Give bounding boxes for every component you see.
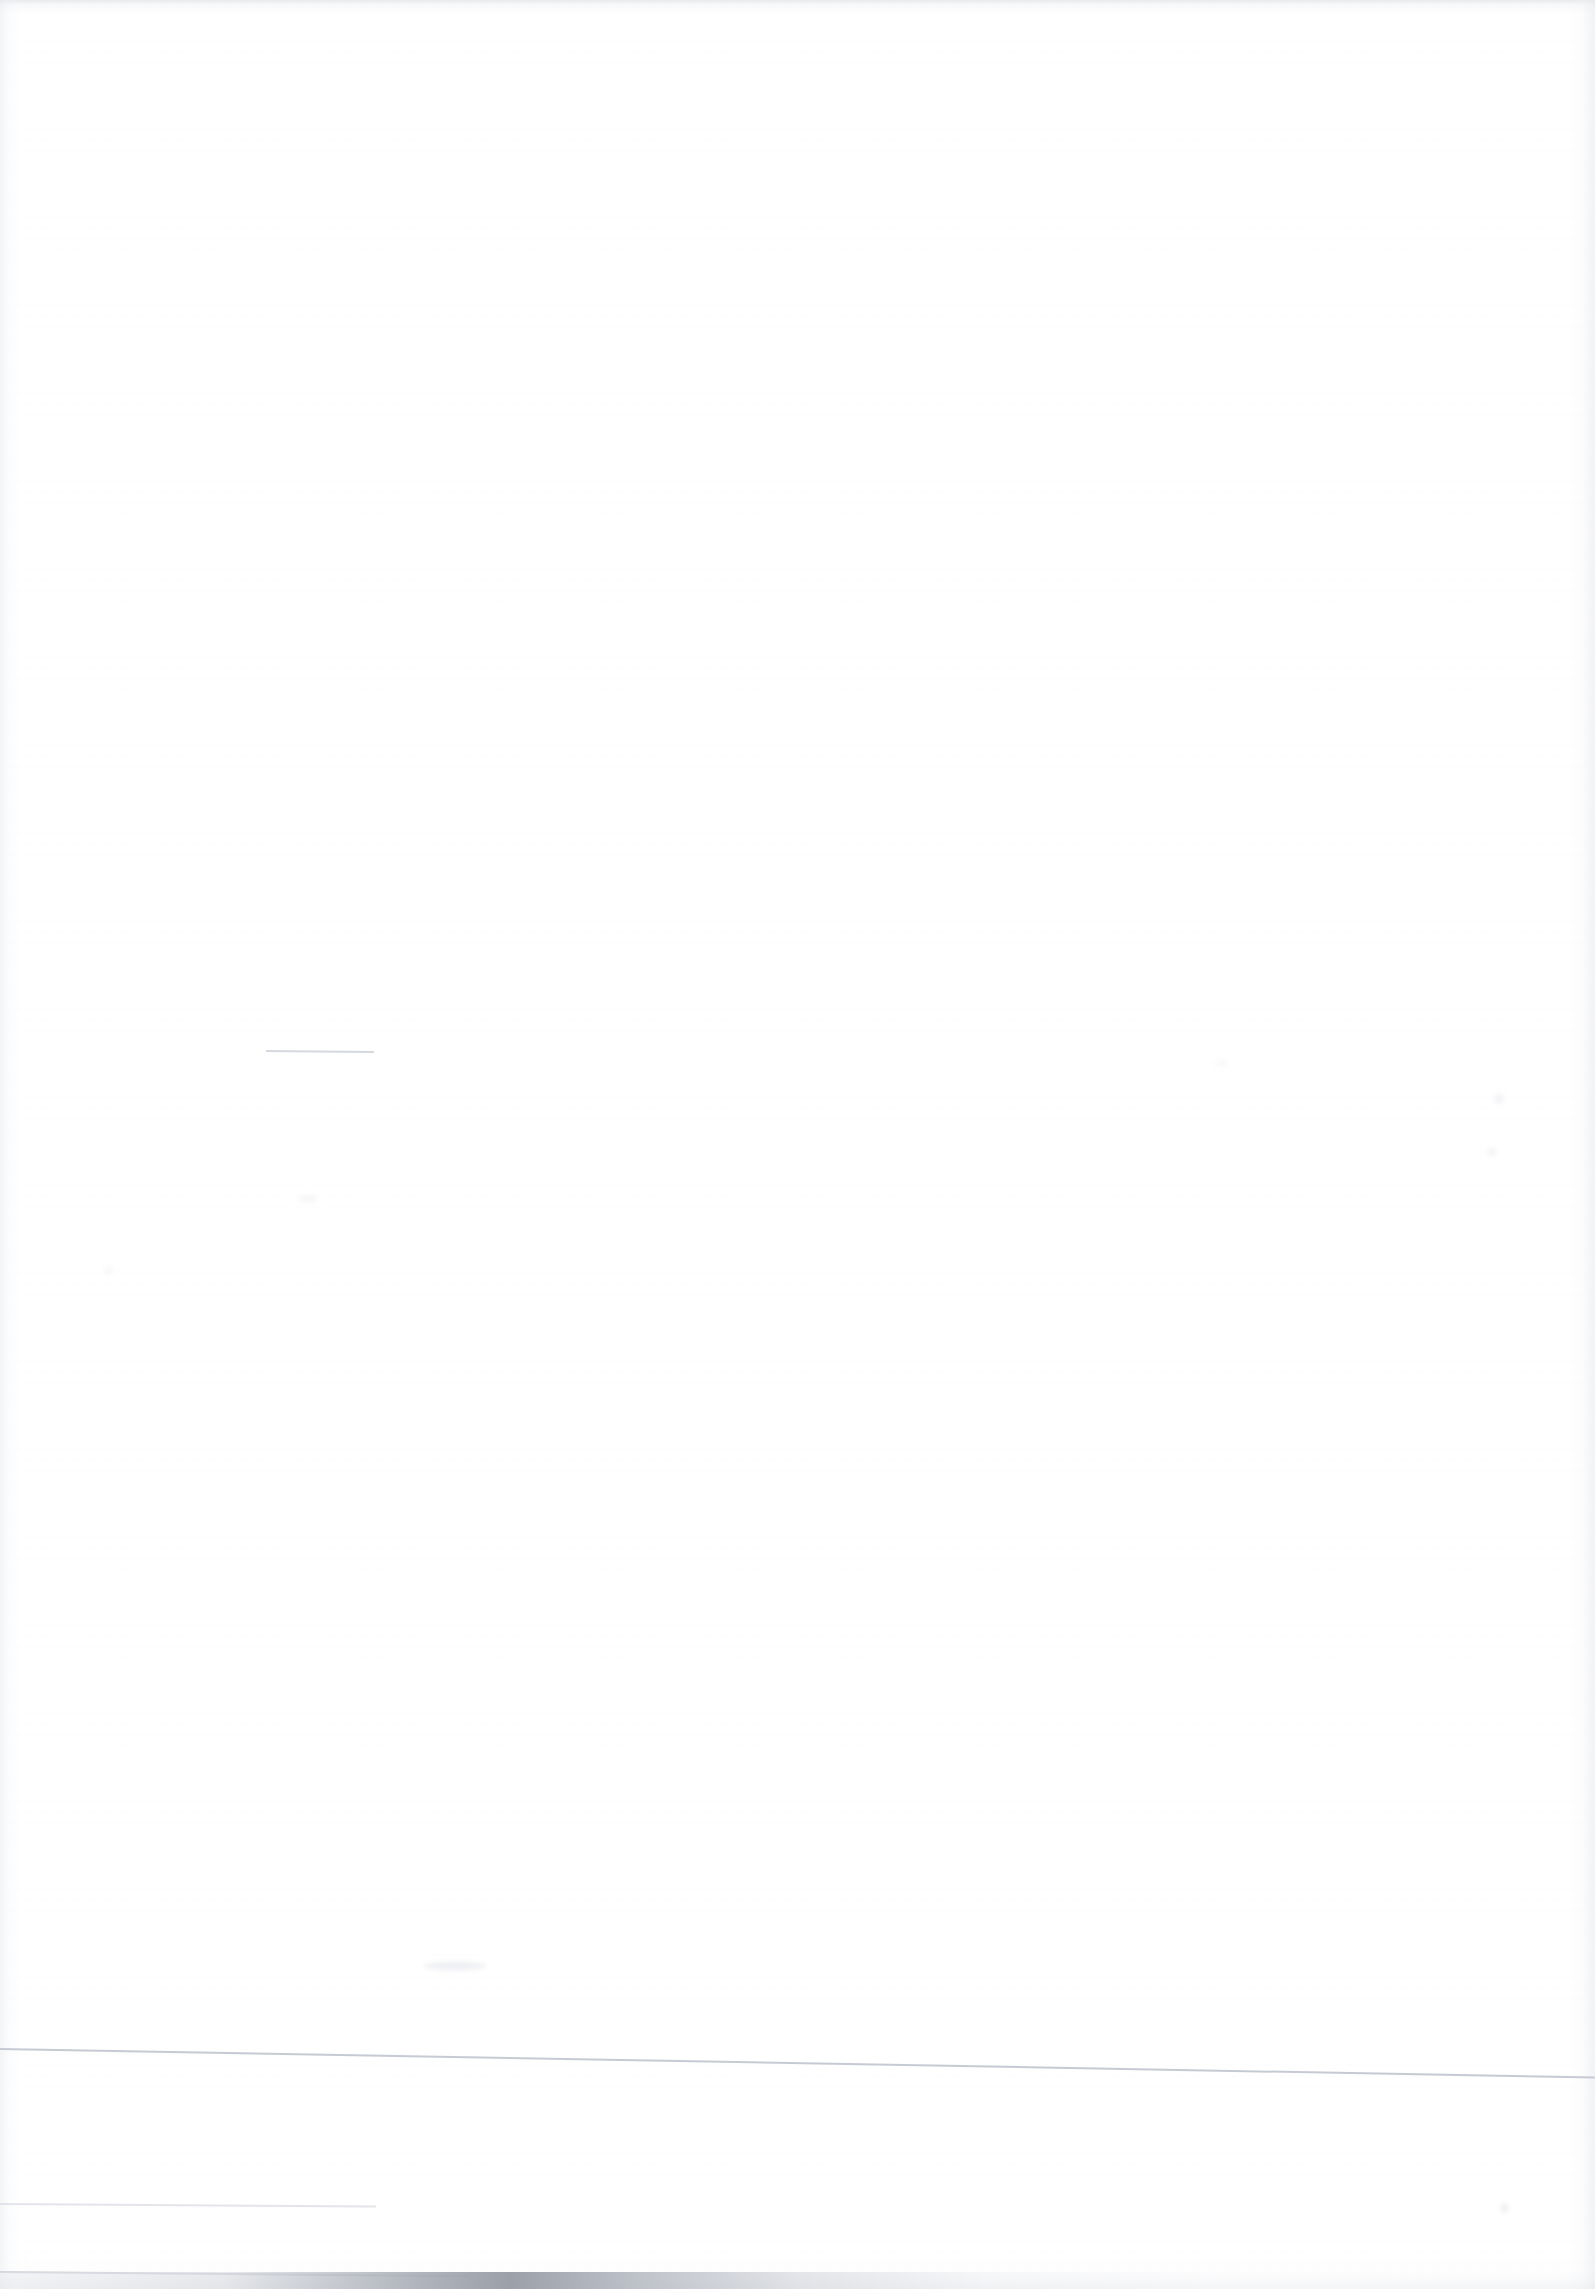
scan-speck	[1488, 1148, 1496, 1156]
rule-stroke	[0, 2271, 470, 2277]
horizontal-rule-upper	[266, 1050, 374, 1053]
scan-speck	[1501, 2204, 1508, 2212]
scanned-document-page: This page of the scanned document contai…	[0, 0, 1595, 2289]
scan-speck	[298, 1196, 318, 1202]
bottom-shadow-feather	[0, 2255, 1595, 2289]
horizontal-rule-lower-left	[0, 2203, 376, 2207]
scan-speck	[1216, 1060, 1228, 1066]
horizontal-rule-full-width	[0, 2048, 1595, 2078]
rule-stroke	[266, 1050, 374, 1053]
rule-stroke	[0, 2203, 376, 2207]
scan-speck	[1494, 1094, 1504, 1104]
paper-texture-overlay	[0, 0, 1595, 2289]
horizontal-rule-bottom-edge	[0, 2271, 470, 2277]
rule-stroke	[0, 2048, 1595, 2078]
scan-smudge	[424, 1962, 486, 1970]
top-edge-shadow	[0, 0, 1595, 14]
bottom-edge-shadow	[0, 2272, 1595, 2289]
right-edge-shadow	[1569, 0, 1595, 2289]
left-edge-shadow	[0, 0, 22, 2289]
scan-speck	[104, 1267, 113, 1274]
